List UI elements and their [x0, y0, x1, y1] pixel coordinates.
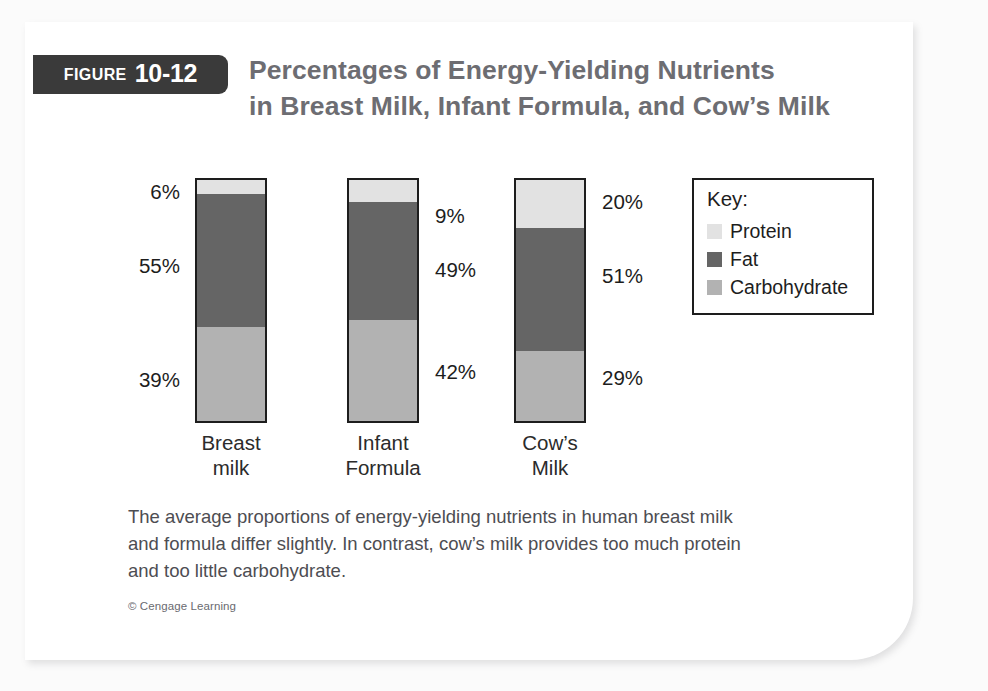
bar-segment-fat: [197, 194, 265, 327]
caption-line-2: and formula differ slightly. In contrast…: [128, 530, 748, 557]
caption-line-1: The average proportions of energy-yieldi…: [128, 503, 748, 530]
bar-label-line-1: Infant: [308, 430, 458, 455]
bar-segment-carbohydrate: [197, 327, 265, 421]
caption-line-3: and too little carbohydrate.: [128, 557, 748, 584]
value-label-carbohydrate: 42%: [435, 360, 515, 384]
legend-label-carbohydrate: Carbohydrate: [730, 277, 848, 297]
bar-segment-fat: [516, 228, 584, 351]
value-label-fat: 55%: [100, 254, 180, 278]
bar-label-cows-milk: Cow’s Milk: [475, 430, 625, 480]
value-label-carbohydrate: 29%: [602, 366, 682, 390]
value-label-protein: 20%: [602, 190, 682, 214]
bar-segment-protein: [349, 180, 417, 202]
legend-label-protein: Protein: [730, 221, 792, 241]
bar-segment-carbohydrate: [349, 320, 417, 421]
legend-swatch-protein: [707, 224, 722, 239]
bar-label-line-1: Cow’s: [475, 430, 625, 455]
bar-segment-fat: [349, 202, 417, 320]
copyright-credit: © Cengage Learning: [128, 600, 236, 612]
bar-stack-breast-milk: [195, 178, 267, 423]
legend-label-fat: Fat: [730, 249, 758, 269]
legend-item-protein: Protein: [707, 217, 872, 245]
legend-item-carbohydrate: Carbohydrate: [707, 273, 872, 301]
legend-item-fat: Fat: [707, 245, 872, 273]
bar-segment-protein: [516, 180, 584, 228]
bar-label-line-2: milk: [156, 455, 306, 480]
value-label-fat: 51%: [602, 264, 682, 288]
bar-label-line-2: Formula: [308, 455, 458, 480]
legend-title: Key:: [707, 187, 872, 211]
legend-swatch-carbohydrate: [707, 280, 722, 295]
value-label-protein: 9%: [435, 204, 515, 228]
figure-card: FIGURE 10-12 Percentages of Energy-Yield…: [25, 22, 913, 660]
bar-label-line-1: Breast: [156, 430, 306, 455]
value-label-fat: 49%: [435, 258, 515, 282]
bar-label-breast-milk: Breast milk: [156, 430, 306, 480]
bar-segment-carbohydrate: [516, 351, 584, 421]
value-label-protein: 6%: [100, 180, 180, 204]
chart-legend: Key: Protein Fat Carbohydrate: [692, 178, 874, 315]
bar-stack-infant-formula: [347, 178, 419, 423]
figure-caption: The average proportions of energy-yieldi…: [128, 503, 748, 584]
legend-swatch-fat: [707, 252, 722, 267]
bar-label-line-2: Milk: [475, 455, 625, 480]
bar-segment-protein: [197, 180, 265, 194]
bar-stack-cows-milk: [514, 178, 586, 423]
value-label-carbohydrate: 39%: [100, 368, 180, 392]
bar-label-infant-formula: Infant Formula: [308, 430, 458, 480]
